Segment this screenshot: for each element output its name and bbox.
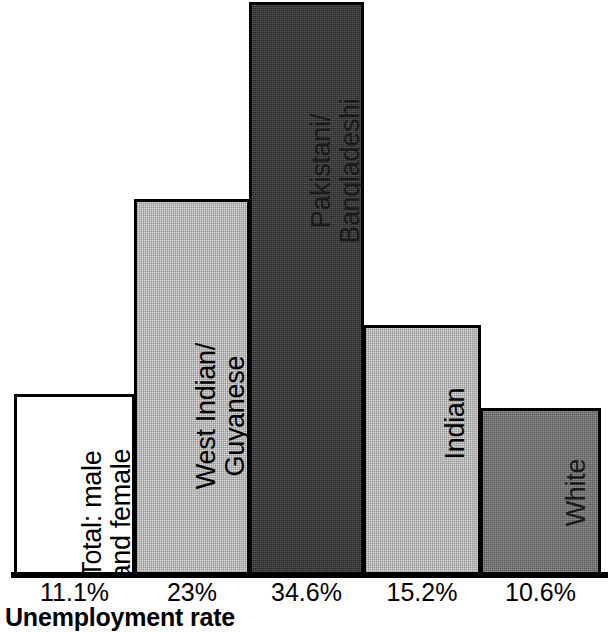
- bar-fill-pakistani-bangladeshi: [252, 5, 361, 572]
- value-labels-row: 11.1% 23% 34.6% 15.2% 10.6%: [0, 579, 615, 605]
- value-label-west-indian-guyanese: 23%: [134, 579, 250, 605]
- value-label-pakistani-bangladeshi: 34.6%: [249, 579, 364, 605]
- value-label-white: 10.6%: [480, 579, 601, 605]
- x-axis-title: Unemployment rate: [5, 603, 235, 631]
- plot-area: Total: male and female West Indian/ Guya…: [0, 0, 615, 578]
- unemployment-rate-bar-chart: Total: male and female West Indian/ Guya…: [0, 0, 615, 632]
- bar-west-indian-guyanese: West Indian/ Guyanese: [134, 199, 250, 575]
- bar-fill-white: [483, 411, 598, 572]
- bar-fill-total-male-and-female: [17, 397, 132, 572]
- value-label-total-male-and-female: 11.1%: [14, 579, 135, 605]
- bar-total-male-and-female: Total: male and female: [14, 394, 135, 575]
- bar-fill-indian: [366, 328, 478, 572]
- bar-fill-west-indian-guyanese: [137, 202, 247, 572]
- bar-indian: Indian: [363, 325, 481, 575]
- bar-pakistani-bangladeshi: Pakistani/ Bangladeshi: [249, 2, 364, 575]
- bar-white: White: [480, 408, 601, 575]
- value-label-indian: 15.2%: [363, 579, 481, 605]
